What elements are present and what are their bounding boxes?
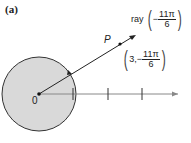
part-label: (a) bbox=[5, 3, 18, 15]
point-coordinates: ( 3, − 11π 6 ) bbox=[122, 48, 167, 70]
point-p bbox=[118, 42, 121, 45]
axis-arrowhead bbox=[172, 92, 178, 97]
ray-label: ray ( − 11π 6 ) bbox=[131, 8, 183, 30]
origin-label: 0 bbox=[32, 95, 38, 106]
point-p-label: P bbox=[104, 34, 111, 45]
ray-arrowhead bbox=[129, 35, 136, 40]
